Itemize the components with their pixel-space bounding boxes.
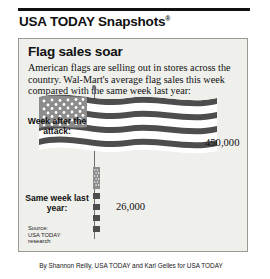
small-flag-icon xyxy=(93,167,107,239)
bar-value-same-week-last-year: 26,000 xyxy=(116,201,145,212)
page-title: USA TODAY Snapshots® xyxy=(19,14,170,29)
top-rule xyxy=(18,8,250,11)
snapshot-panel: Flag sales soar American flags are selli… xyxy=(18,38,248,252)
bar-value-week-after-attack: 450,000 xyxy=(205,137,239,148)
registered-mark-icon: ® xyxy=(165,15,170,22)
byline-credit: By Shannon Reilly, USA TODAY and Karl Ge… xyxy=(0,262,262,269)
source-org: USA TODAY xyxy=(28,232,61,239)
bar-label-week-after-attack: Week after the attack: xyxy=(21,117,93,136)
deck-text: American flags are selling out in stores… xyxy=(28,62,242,97)
source-detail: research xyxy=(28,238,61,245)
source-label: Source: xyxy=(28,225,61,232)
masthead-text: USA TODAY Snapshots xyxy=(19,14,165,29)
flagpole-icon xyxy=(94,87,95,239)
headline: Flag sales soar xyxy=(28,44,123,59)
bar-label-same-week-last-year: Same week last year: xyxy=(21,194,93,213)
source-note: Source: USA TODAY research xyxy=(28,225,61,245)
